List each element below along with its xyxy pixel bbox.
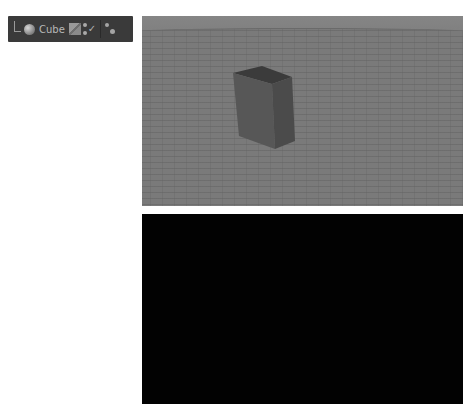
- tag-icon[interactable]: [105, 22, 117, 36]
- object-sphere-icon: [24, 24, 35, 35]
- cube-object[interactable]: [142, 16, 463, 206]
- render-preview-panel[interactable]: [142, 214, 463, 404]
- tag-dot: [110, 29, 115, 34]
- visibility-dots-icon[interactable]: [83, 23, 87, 35]
- tag-dot: [105, 23, 109, 27]
- visibility-toggle[interactable]: ✓: [83, 22, 96, 36]
- object-manager-row[interactable]: Cube ✓: [8, 16, 133, 42]
- tree-connector-icon: [14, 21, 21, 32]
- toolbar-separator: [100, 20, 101, 38]
- cube-front-face: [233, 73, 275, 149]
- cube-right-face: [272, 77, 295, 149]
- clipped-header-text: [20, 0, 400, 4]
- enabled-check-icon[interactable]: ✓: [88, 24, 96, 34]
- render-visibility-dot[interactable]: [83, 31, 87, 35]
- material-swatch-icon[interactable]: [69, 23, 81, 35]
- object-name-label[interactable]: Cube: [39, 24, 65, 35]
- 3d-viewport[interactable]: [142, 16, 463, 206]
- editor-visibility-dot[interactable]: [83, 23, 87, 27]
